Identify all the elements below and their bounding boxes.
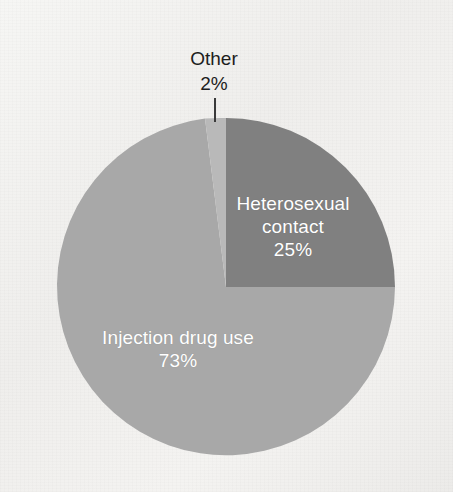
pie-label-other: Other 2% bbox=[154, 46, 274, 96]
pie-label-injection-drug-use-value: 73% bbox=[88, 349, 268, 372]
pie-label-injection-drug-use-line1: Injection drug use bbox=[88, 326, 268, 349]
pie-label-other-name: Other bbox=[154, 46, 274, 71]
pie-chart-figure: Other 2% Heterosexual contact 25% Inject… bbox=[0, 0, 453, 492]
pie-label-heterosexual-contact-line2: contact bbox=[223, 215, 363, 238]
other-callout-leader-line bbox=[214, 98, 216, 122]
pie-label-heterosexual-contact-line1: Heterosexual bbox=[223, 192, 363, 215]
pie-label-other-value: 2% bbox=[154, 71, 274, 96]
pie-label-heterosexual-contact-value: 25% bbox=[223, 238, 363, 261]
pie-label-heterosexual-contact: Heterosexual contact 25% bbox=[223, 192, 363, 261]
pie-label-injection-drug-use: Injection drug use 73% bbox=[88, 326, 268, 372]
